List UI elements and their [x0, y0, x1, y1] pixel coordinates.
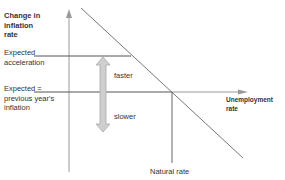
expected-acceleration-label: Expected acceleration	[4, 48, 44, 67]
double-arrow-icon	[96, 57, 110, 132]
y-axis	[66, 9, 72, 172]
natural-rate-label: Natural rate	[150, 167, 189, 177]
x-axis-label: Unemployment rate	[226, 96, 273, 113]
slower-label: slower	[114, 112, 136, 122]
x-axis	[172, 90, 248, 95]
expected-previous-label: Expected = previous year's inflation	[4, 84, 54, 113]
faster-label: faster	[114, 71, 133, 81]
y-axis-label: Change in inflation rate	[4, 11, 40, 40]
